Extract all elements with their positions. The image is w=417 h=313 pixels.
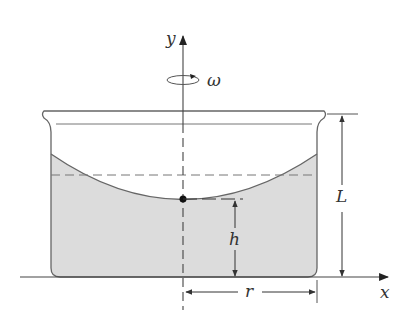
omega-label: ω <box>207 72 221 89</box>
x-axis-label: x <box>380 284 390 301</box>
liquid-region <box>51 154 317 277</box>
h-label: h <box>229 231 240 248</box>
y-axis-label: y <box>166 30 176 47</box>
L-label: L <box>336 188 347 205</box>
r-label: r <box>245 283 253 300</box>
rotation-arrowhead <box>190 74 196 79</box>
rotating-container-diagram <box>0 0 417 313</box>
